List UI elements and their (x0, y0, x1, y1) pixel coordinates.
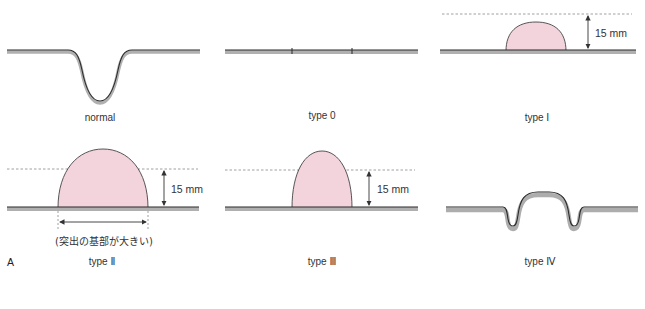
mucosa-band (225, 50, 418, 54)
height-measure-type1: 15 mm (595, 27, 627, 39)
mucosa-band (440, 50, 636, 54)
lesion-dome (58, 149, 148, 208)
panel-type0 (225, 48, 418, 54)
label-type2: type Ⅱ (89, 256, 116, 267)
mucosa-band (446, 195, 638, 229)
mucosa-band (225, 207, 418, 211)
panel-letter: A (7, 256, 14, 268)
lesion-dome (292, 151, 352, 208)
base-note-type2: (突出の基部が大きい) (55, 233, 153, 248)
panel-normal (7, 50, 200, 103)
label-type4: type Ⅳ (525, 256, 556, 267)
panel-type3 (225, 151, 418, 211)
mucosa-band (7, 207, 199, 211)
label-type3: type Ⅲ (308, 256, 337, 267)
mucosa-band (7, 52, 200, 103)
label-normal: normal (85, 112, 116, 123)
lesion-dome (506, 22, 566, 51)
label-type0: type 0 (308, 110, 335, 121)
height-measure-type2: 15 mm (171, 183, 203, 195)
panel-type4 (446, 192, 638, 229)
mucosa-outline (7, 50, 200, 101)
height-measure-type3: 15 mm (377, 183, 409, 195)
label-type1: type Ⅰ (525, 112, 550, 123)
